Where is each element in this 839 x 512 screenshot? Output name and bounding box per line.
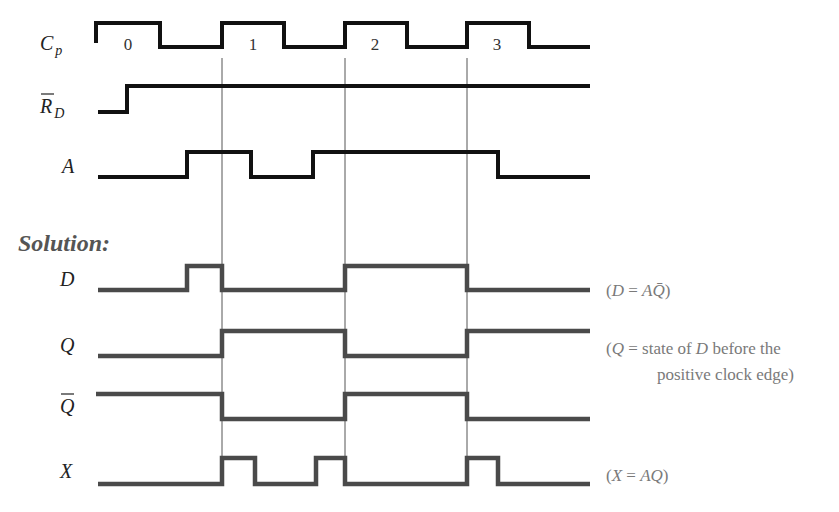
signal-label-a: A xyxy=(60,155,75,177)
annotation-q-eq-2: positive clock edge) xyxy=(657,365,794,384)
signal-label-q_bar: Q xyxy=(60,395,75,417)
annotation-q-eq: (Q = state of D before the xyxy=(606,339,781,358)
cycle-number-2: 2 xyxy=(371,35,380,54)
waveform-d xyxy=(98,266,590,290)
cycle-number-3: 3 xyxy=(493,35,502,54)
waveform-cp xyxy=(96,23,590,47)
equation-annotations: (D = AQ̄)(Q = state of D before theposit… xyxy=(606,281,794,485)
waveform-rd_bar xyxy=(98,86,590,112)
annotation-x-eq: (X = AQ) xyxy=(606,466,669,485)
waveform-q xyxy=(98,331,590,356)
timing-diagram: CpRDADQQX 0123 Solution: (D = AQ̄)(Q = s… xyxy=(0,0,839,512)
waveform-q_bar xyxy=(96,394,590,419)
timing-diagram-canvas: CpRDADQQX 0123 Solution: (D = AQ̄)(Q = s… xyxy=(0,0,839,512)
waveforms xyxy=(96,23,590,484)
signal-labels: CpRDADQQX xyxy=(39,32,75,482)
solution-heading: Solution: xyxy=(18,230,110,256)
cycle-number-1: 1 xyxy=(249,35,258,54)
signal-label-x: X xyxy=(59,460,73,482)
signal-label-q: Q xyxy=(60,334,75,356)
signal-label-rd_bar: RD xyxy=(39,95,64,121)
waveform-x xyxy=(98,458,590,484)
signal-label-d: D xyxy=(59,268,75,290)
cycle-number-0: 0 xyxy=(124,35,133,54)
annotation-d-eq: (D = AQ̄) xyxy=(606,281,670,300)
waveform-a xyxy=(98,152,590,177)
clock-cycle-numbers: 0123 xyxy=(124,35,502,54)
signal-label-cp: Cp xyxy=(40,32,62,58)
